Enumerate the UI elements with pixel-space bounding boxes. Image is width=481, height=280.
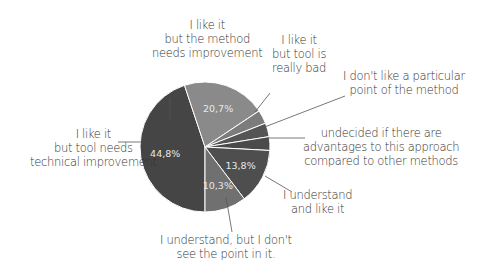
- label-like: I understand and like it: [283, 188, 352, 216]
- label-point: I don't like a particular point of the m…: [343, 69, 465, 97]
- slice-percent-label: 10,3%: [203, 180, 233, 191]
- label-bad: I like it but tool is really bad: [272, 33, 326, 75]
- label-tech: I like it but tool needs technical impro…: [30, 127, 157, 169]
- label-method: I like it but the method needs improveme…: [152, 18, 262, 60]
- label-undecided: undecided if there are advantages to thi…: [303, 126, 459, 168]
- slice-percent-label: 20,7%: [203, 103, 233, 114]
- label-nopoint: I understand, but I don't see the point …: [160, 233, 292, 261]
- slice-percent-label: 13,8%: [226, 160, 256, 171]
